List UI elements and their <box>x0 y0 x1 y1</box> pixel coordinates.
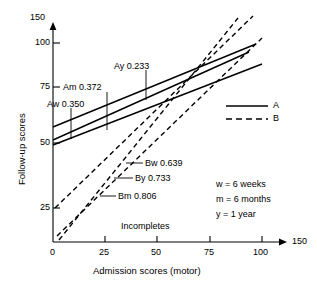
note-months: m = 6 months <box>216 195 271 204</box>
series-line-by <box>57 38 262 236</box>
x-tick-label-0: 0 <box>50 248 55 257</box>
x-axis <box>53 236 287 245</box>
series-label-bm: Bm 0.806 <box>118 192 157 201</box>
series-label-aw: Aw 0.350 <box>47 100 84 109</box>
series-label-bw: Bw 0.639 <box>145 159 183 168</box>
x-axis-title: Admission scores (motor) <box>93 266 201 276</box>
series-label-by: By 0.733 <box>135 174 171 183</box>
series-label-am: Am 0.372 <box>63 83 102 92</box>
series-label-ay: Ay 0.233 <box>114 62 149 71</box>
series-group-a <box>53 44 262 145</box>
y-tick-label-100: 100 <box>24 38 50 47</box>
x-tick-label-25: 25 <box>99 248 109 257</box>
note-year: y = 1 year <box>216 210 256 219</box>
y-tick-label-75: 75 <box>24 82 50 91</box>
series-group-b <box>55 16 262 240</box>
y-tick-label-25: 25 <box>24 203 50 212</box>
note-weeks: w = 6 weeks <box>216 180 266 189</box>
y-axis-end-label: 150 <box>30 13 45 22</box>
y-tick-label-50: 50 <box>24 138 50 147</box>
legend-label-a: A <box>273 101 279 110</box>
x-tick-label-100: 100 <box>253 248 268 257</box>
legend-swatches <box>226 106 268 119</box>
y-axis-arrowhead <box>50 22 57 30</box>
x-axis-end-label: 150 <box>292 237 307 246</box>
x-tick-label-75: 75 <box>204 248 214 257</box>
x-tick-label-50: 50 <box>151 248 161 257</box>
chart-container: 150 100 75 50 25 Follow-up scores 0 25 5… <box>0 0 317 286</box>
y-axis-title: Follow-up scores <box>16 113 27 185</box>
incompletes-annotation: Incompletes <box>121 222 170 231</box>
legend-label-b: B <box>273 114 279 123</box>
series-line-bm <box>59 18 238 240</box>
x-axis-arrowhead <box>279 239 287 246</box>
y-axis <box>50 22 60 242</box>
